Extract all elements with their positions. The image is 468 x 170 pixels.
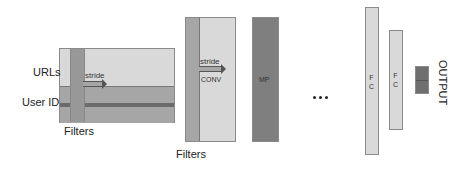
maxpool-label: MP bbox=[259, 76, 270, 83]
output-divider bbox=[416, 80, 428, 81]
fc-1-label: F C bbox=[365, 73, 378, 91]
output-label: OUTPUT bbox=[437, 60, 449, 105]
input-matrix bbox=[59, 48, 175, 123]
conv-stride-label: stride bbox=[200, 57, 220, 66]
input-filters-label: Filters bbox=[64, 125, 94, 137]
input-stride-arrow-icon bbox=[83, 81, 102, 87]
fc-2-label: F C bbox=[389, 71, 402, 89]
urls-label: URLs bbox=[33, 66, 61, 78]
output-layer bbox=[415, 66, 429, 94]
ellipsis bbox=[313, 96, 333, 101]
conv-stride-arrow-icon bbox=[199, 66, 221, 72]
user-id-label: User ID bbox=[22, 96, 59, 108]
conv-filters-label: Filters bbox=[176, 148, 206, 160]
conv-filter-strip bbox=[186, 18, 200, 141]
conv-label: CONV bbox=[201, 76, 221, 83]
